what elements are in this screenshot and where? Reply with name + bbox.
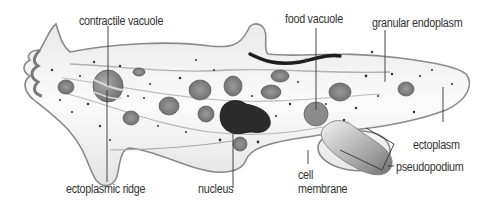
contractile-vacuole (93, 70, 124, 102)
label-granular-endoplasm: granular endoplasm (372, 17, 462, 30)
label-nucleus: nucleus (198, 183, 233, 196)
label-contractile-vacuole: contractile vacuole (79, 15, 163, 28)
amoeba-illustration (0, 0, 489, 210)
label-pseudopodium: pseudopodium (396, 161, 463, 174)
label-ectoplasmic-ridge: ectoplasmic ridge (66, 183, 145, 196)
pseudopodium-shape (321, 121, 392, 175)
label-food-vacuole: food vacuole (285, 13, 343, 26)
label-cell-membrane-line1: cell (298, 169, 313, 182)
label-ectoplasm: ectoplasm (413, 139, 460, 152)
amoeba-diagram: contractile vacuole food vacuole granula… (0, 0, 489, 210)
label-cell-membrane-line2: membrane (298, 183, 347, 196)
